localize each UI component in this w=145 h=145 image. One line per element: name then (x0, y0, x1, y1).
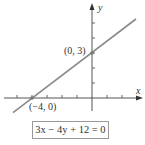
x-axis-arrow-icon (136, 96, 143, 101)
y-axis-label: y (98, 3, 102, 13)
equation-text: 3x − 4y + 12 = 0 (35, 124, 105, 135)
x-axis-label: x (136, 86, 140, 96)
point-label-y-intercept: (0, 3) (64, 46, 86, 56)
point-y-intercept (90, 51, 94, 55)
y-axis-arrow-icon (90, 3, 95, 10)
point-label-x-intercept: (−4, 0) (29, 102, 56, 112)
point-x-intercept (30, 96, 34, 100)
equation-box: 3x − 4y + 12 = 0 (32, 121, 109, 139)
